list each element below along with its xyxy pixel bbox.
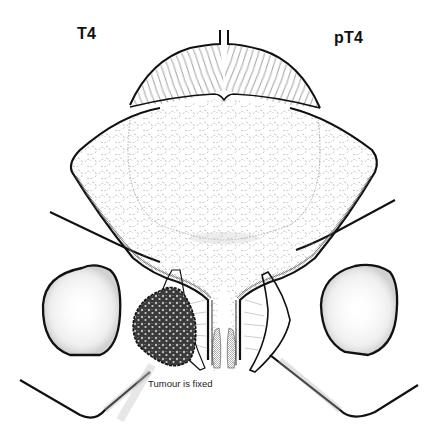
caption-tumour-fixed: Tumour is fixed [148, 378, 213, 389]
stage-label-pt4: pT4 [334, 29, 363, 47]
tumour-mass [120, 287, 196, 420]
obturator-foramen-right [321, 265, 397, 355]
obturator-foramen-left [43, 265, 120, 355]
stage-label-t4: T4 [77, 25, 96, 43]
tnm-staging-illustration [0, 0, 448, 435]
bladder-dome-muscle [130, 30, 320, 108]
